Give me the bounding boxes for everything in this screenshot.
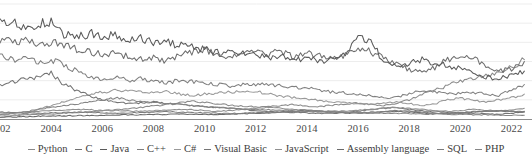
legend-line-icon [475,149,482,150]
line-chart: 2002200420062008201020122014201620182020… [0,0,532,166]
legend-item[interactable]: Python [28,143,68,155]
legend-line-icon [174,149,181,150]
x-tick-label: 2008 [143,123,164,134]
plot-area [0,0,532,122]
legend-item[interactable]: C++ [137,143,166,155]
legend-item[interactable]: Assembly language [337,143,430,155]
legend-label: C++ [147,143,166,155]
plot-svg [0,0,532,122]
legend-line-icon [28,149,35,150]
legend-line-icon [275,149,282,150]
legend-line-icon [337,149,344,150]
legend-label: PHP [485,143,504,155]
legend-label: JavaScript [285,143,329,155]
x-tick-label: 2004 [40,123,61,134]
x-tick-label: 2022 [501,123,522,134]
x-tick-label: 2016 [347,123,368,134]
legend-item[interactable]: PHP [475,143,504,155]
legend-line-icon [437,149,444,150]
legend-label: Assembly language [347,143,430,155]
x-tick-label: 2002 [0,123,11,134]
x-axis-tick-labels: 2002200420062008201020122014201620182020… [0,123,532,139]
legend-label: Python [38,143,68,155]
x-tick-label: 2006 [92,123,113,134]
series-lines [0,18,524,117]
legend-line-icon [204,149,211,150]
legend-item[interactable]: SQL [437,143,467,155]
legend-line-icon [75,149,82,150]
chart-legend: PythonCJavaC++C#Visual BasicJavaScriptAs… [0,141,532,157]
legend-item[interactable]: Java [100,143,129,155]
legend-line-icon [137,149,144,150]
legend-item[interactable]: Visual Basic [204,143,267,155]
series-line [0,18,524,80]
legend-label: Java [110,143,129,155]
legend-label: C# [184,143,196,155]
legend-item[interactable]: C [75,143,92,155]
legend-label: SQL [447,143,467,155]
legend-label: C [85,143,92,155]
x-tick-label: 2010 [194,123,215,134]
x-tick-label: 2014 [296,123,317,134]
legend-label: Visual Basic [214,143,267,155]
x-tick-label: 2020 [450,123,471,134]
x-tick-label: 2018 [399,123,420,134]
legend-item[interactable]: JavaScript [275,143,329,155]
x-tick-label: 2012 [245,123,266,134]
legend-item[interactable]: C# [174,143,196,155]
legend-line-icon [100,149,107,150]
